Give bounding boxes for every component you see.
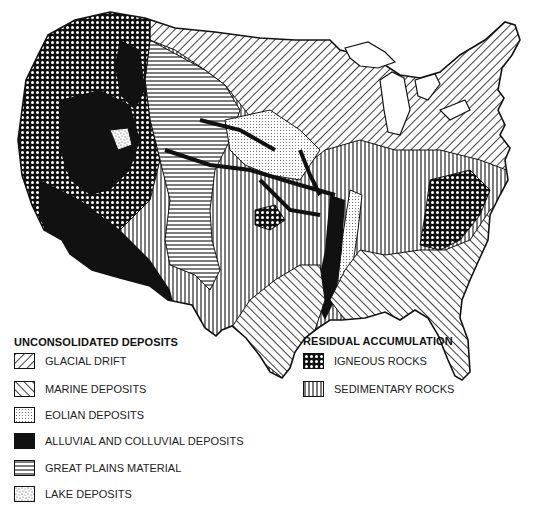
legend-label: IGNEOUS ROCKS (334, 355, 427, 367)
legend-item-lake-deposits: LAKE DEPOSITS (14, 485, 132, 503)
legend-label: ALLUVIAL AND COLLUVIAL DEPOSITS (45, 435, 243, 447)
legend-item-alluvial-colluvial: ALLUVIAL AND COLLUVIAL DEPOSITS (14, 432, 243, 450)
alluvial-colluvial-swatch-icon (14, 433, 35, 449)
legend-label: SEDIMENTARY ROCKS (334, 383, 454, 395)
legend-item-eolian-deposits: EOLIAN DEPOSITS (14, 406, 144, 424)
legend-label: GLACIAL DRIFT (45, 355, 127, 367)
legend-heading-unconsolidated: UNCONSOLIDATED DEPOSITS (14, 336, 178, 348)
glacial-drift-swatch-icon (14, 353, 35, 369)
lake-deposits-swatch-icon (14, 486, 35, 502)
igneous-rocks-swatch-icon (303, 353, 324, 369)
great-plains-swatch-icon (14, 460, 35, 476)
eolian-deposits-swatch-icon (14, 407, 35, 423)
legend-item-great-plains-material: GREAT PLAINS MATERIAL (14, 459, 181, 477)
sedimentary-rocks-swatch-icon (303, 381, 324, 397)
legend-label: GREAT PLAINS MATERIAL (45, 462, 181, 474)
legend-heading-residual: RESIDUAL ACCUMULATION (303, 335, 453, 347)
marine-deposits-swatch-icon (14, 381, 35, 397)
legend-label: MARINE DEPOSITS (45, 383, 146, 395)
legend-item-glacial-drift: GLACIAL DRIFT (14, 352, 127, 370)
legend-item-igneous-rocks: IGNEOUS ROCKS (303, 352, 427, 370)
legend-item-marine-deposits: MARINE DEPOSITS (14, 380, 146, 398)
legend-label: LAKE DEPOSITS (45, 488, 132, 500)
legend-item-sedimentary-rocks: SEDIMENTARY ROCKS (303, 380, 454, 398)
legend-label: EOLIAN DEPOSITS (45, 409, 144, 421)
